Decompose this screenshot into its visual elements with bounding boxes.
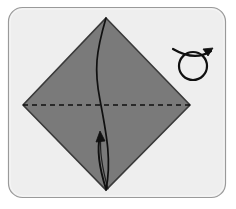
origami-figure: Origami fold step: square base turned on… [0,0,236,209]
origami-diagram-panel: Origami fold step: square base turned on… [0,0,236,209]
